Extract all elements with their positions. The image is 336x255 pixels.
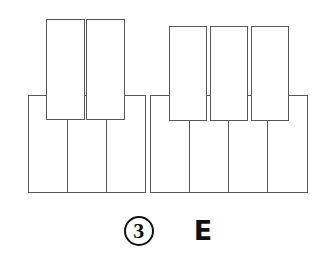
black-key-a-sharp[interactable] [251, 26, 289, 121]
diagram-page: 3 E [0, 0, 336, 255]
note-name-label: E [194, 217, 212, 244]
black-key-g-sharp[interactable] [210, 26, 248, 121]
black-key-c-sharp[interactable] [46, 19, 85, 120]
black-key-d-sharp[interactable] [86, 19, 125, 120]
piano-keyboard-diagram [0, 0, 336, 205]
step-number-badge: 3 [124, 216, 154, 246]
caption: 3 E [0, 206, 336, 255]
black-key-f-sharp[interactable] [169, 26, 207, 121]
